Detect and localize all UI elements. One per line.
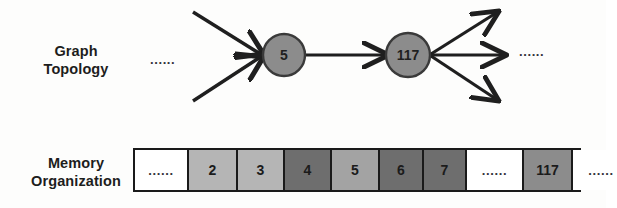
graph-ellipsis-right: ......: [519, 44, 544, 59]
memory-organization-label-line1: Memory: [12, 154, 140, 172]
graph-topology-row: Graph Topology: [0, 0, 606, 120]
memory-cell[interactable]: 6: [380, 150, 424, 190]
memory-organization-label: Memory Organization: [12, 154, 140, 190]
memory-cell-ellipsis[interactable]: ......: [135, 150, 189, 190]
graph-node-117[interactable]: [386, 33, 430, 77]
outgoing-edge-up-right: [431, 13, 496, 54]
memory-cell-ellipsis[interactable]: ......: [573, 150, 617, 190]
outgoing-edge-down-right: [431, 56, 496, 99]
incoming-edge-upper-left: [193, 12, 262, 55]
memory-cell[interactable]: 117: [524, 150, 573, 190]
memory-cell-ellipsis[interactable]: ......: [467, 150, 524, 190]
memory-cell[interactable]: 5: [332, 150, 380, 190]
memory-cell[interactable]: 7: [424, 150, 467, 190]
memory-cell[interactable]: 2: [189, 150, 238, 190]
incoming-edge-lower-left: [193, 56, 262, 101]
graph-node-5[interactable]: [263, 34, 305, 76]
memory-organization-bar: ......234567......117......: [133, 148, 581, 192]
memory-cell[interactable]: 3: [238, 150, 285, 190]
memory-cell[interactable]: 4: [285, 150, 332, 190]
graph-ellipsis-left: ......: [150, 52, 175, 67]
graph-topology-svg: [0, 0, 606, 120]
memory-organization-label-line2: Organization: [12, 172, 140, 190]
